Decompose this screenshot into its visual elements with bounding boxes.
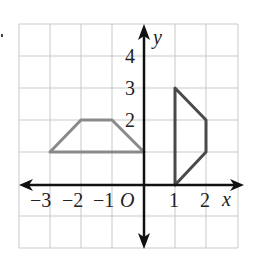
- x-tick-1: 1: [169, 189, 179, 211]
- x-axis-label: x: [221, 188, 231, 210]
- y-axis-label: y: [151, 26, 162, 49]
- x-tick-2: 2: [200, 189, 210, 211]
- x-tick-neg3: −3: [30, 189, 51, 211]
- y-tick-3: 3: [125, 77, 135, 99]
- image-trapezoid: [175, 88, 206, 185]
- y-axis: [138, 24, 150, 249]
- x-tick-neg2: −2: [62, 189, 83, 211]
- coordinate-plane: y x −3 −2 −1 O 1 2 2 3 4: [0, 0, 255, 256]
- y-tick-4: 4: [125, 45, 135, 67]
- stray-mark: [1, 34, 3, 37]
- y-tick-2: 2: [125, 109, 135, 131]
- origin-label: O: [120, 189, 134, 211]
- x-tick-neg1: −1: [93, 189, 114, 211]
